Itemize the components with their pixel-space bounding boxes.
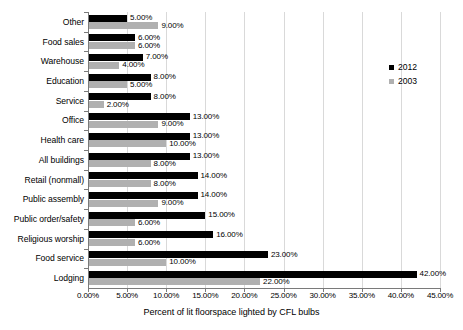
bar-value-label: 6.00% [138, 219, 160, 227]
y-axis-line [88, 12, 89, 289]
bar-value-label: 9.00% [161, 199, 183, 207]
bar-2003 [88, 42, 135, 49]
category-label: Retail (nonmall) [0, 175, 84, 185]
bar-group: 14.00%9.00% [88, 189, 440, 209]
bar-group: 15.00%6.00% [88, 209, 440, 229]
bar-value-label: 22.00% [263, 278, 290, 286]
x-axis-line [88, 288, 441, 289]
x-axis-tickmark [127, 288, 128, 292]
category-label: Food sales [0, 37, 84, 47]
legend-item-2003[interactable]: 2003 [389, 74, 441, 88]
bar-group: 13.00%8.00% [88, 150, 440, 170]
bar-2003 [88, 22, 158, 29]
bar-2003 [88, 239, 135, 246]
bar-2012 [88, 15, 127, 22]
bar-value-label: 8.00% [154, 73, 176, 81]
bar-value-label: 10.00% [169, 140, 196, 148]
bar-2012 [88, 34, 135, 41]
bar-group: 42.00%22.00% [88, 268, 440, 288]
category-label: Food service [0, 253, 84, 263]
bar-2003 [88, 219, 135, 226]
bar-value-label: 5.00% [130, 81, 152, 89]
bar-value-label: 42.00% [420, 270, 447, 278]
legend-swatch-icon [389, 65, 394, 70]
bar-value-label: 13.00% [193, 132, 220, 140]
bar-2003 [88, 259, 166, 266]
bar-2003 [88, 200, 158, 207]
plot-area: 5.00%9.00%6.00%6.00%7.00%4.00%8.00%5.00%… [88, 12, 440, 288]
bar-value-label: 4.00% [122, 61, 144, 69]
x-axis-tick-labels: 0.00%5.00%10.00%15.00%20.00%25.00%30.00%… [0, 291, 463, 305]
bar-2003 [88, 81, 127, 88]
bar-value-label: 8.00% [154, 180, 176, 188]
category-label: Education [0, 76, 84, 86]
bar-value-label: 23.00% [271, 251, 298, 259]
x-axis-title: Percent of lit floorspace lighted by CFL… [0, 306, 463, 318]
bar-value-label: 9.00% [161, 22, 183, 30]
bar-value-label: 9.00% [161, 120, 183, 128]
bar-2003 [88, 121, 158, 128]
category-label: All buildings [0, 155, 84, 165]
category-label: Public order/safety [0, 214, 84, 224]
legend-label: 2012 [398, 62, 417, 72]
bar-2003 [88, 180, 151, 187]
bar-value-label: 5.00% [130, 14, 152, 22]
x-axis-tickmark [323, 288, 324, 292]
bar-group: 8.00%5.00% [88, 71, 440, 91]
bar-value-label: 7.00% [146, 53, 168, 61]
bar-group: 23.00%10.00% [88, 249, 440, 269]
bar-value-label: 8.00% [154, 160, 176, 168]
x-axis-tickmark [284, 288, 285, 292]
category-label: Service [0, 96, 84, 106]
x-axis-tickmark [440, 288, 441, 292]
x-axis-tickmark [166, 288, 167, 292]
bar-group: 8.00%2.00% [88, 91, 440, 111]
x-axis-tickmark [88, 288, 89, 292]
bar-value-label: 13.00% [193, 152, 220, 160]
legend-label: 2003 [398, 76, 417, 86]
bar-group: 5.00%9.00% [88, 12, 440, 32]
bar-value-label: 6.00% [138, 239, 160, 247]
bar-group: 16.00%6.00% [88, 229, 440, 249]
legend-item-2012[interactable]: 2012 [389, 60, 441, 74]
bar-group: 13.00%9.00% [88, 111, 440, 131]
bar-chart: 5.00%9.00%6.00%6.00%7.00%4.00%8.00%5.00%… [0, 0, 463, 330]
bar-value-label: 13.00% [193, 113, 220, 121]
bar-value-label: 14.00% [201, 191, 228, 199]
bar-group: 14.00%8.00% [88, 170, 440, 190]
bar-2003 [88, 278, 260, 285]
bar-group: 6.00%6.00% [88, 32, 440, 52]
x-axis-tickmark [205, 288, 206, 292]
gridline [440, 12, 441, 288]
legend-swatch-icon [389, 79, 394, 84]
bar-2003 [88, 140, 166, 147]
x-axis-tickmark [362, 288, 363, 292]
y-axis-category-labels: OtherFood salesWarehouseEducationService… [0, 12, 84, 288]
bar-2012 [88, 172, 198, 179]
bar-value-label: 10.00% [169, 258, 196, 266]
category-label: Religious worship [0, 234, 84, 244]
bar-group: 13.00%10.00% [88, 130, 440, 150]
category-label: Office [0, 115, 84, 125]
category-label: Health care [0, 135, 84, 145]
bar-value-label: 6.00% [138, 42, 160, 50]
bar-2003 [88, 160, 151, 167]
x-axis-tick-label: 45.00% [417, 291, 463, 301]
bar-group: 7.00%4.00% [88, 51, 440, 71]
bar-value-label: 15.00% [208, 211, 235, 219]
chart-legend: 20122003 [389, 60, 441, 88]
category-label: Other [0, 17, 84, 27]
category-label: Warehouse [0, 56, 84, 66]
bar-value-label: 8.00% [154, 93, 176, 101]
x-axis-tickmark [401, 288, 402, 292]
bar-value-label: 14.00% [201, 172, 228, 180]
category-label: Public assembly [0, 194, 84, 204]
bar-2012 [88, 271, 417, 278]
bar-2003 [88, 62, 119, 69]
bar-value-label: 16.00% [216, 231, 243, 239]
category-label: Lodging [0, 273, 84, 283]
bar-value-label: 2.00% [107, 101, 129, 109]
bar-2003 [88, 101, 104, 108]
x-axis-tickmark [244, 288, 245, 292]
